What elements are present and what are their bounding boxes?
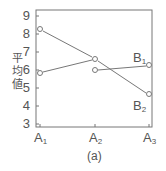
y-tick-label-8: 8 xyxy=(18,27,30,40)
x-label-a3: A3 xyxy=(143,131,156,146)
y-tick-label-4: 4 xyxy=(18,99,30,112)
x-label-a2: A2 xyxy=(89,131,102,146)
series-label-b2: B2 xyxy=(133,99,146,114)
series-b2-line xyxy=(43,31,146,93)
y-axis-label: 平均値 xyxy=(11,52,23,91)
series-label-b1: B1 xyxy=(133,51,146,66)
y-tick-label-3: 3 xyxy=(18,117,30,130)
y-tick-label-9: 9 xyxy=(18,9,30,22)
chart-caption: (a) xyxy=(87,150,102,162)
x-label-a1: A1 xyxy=(34,131,47,146)
